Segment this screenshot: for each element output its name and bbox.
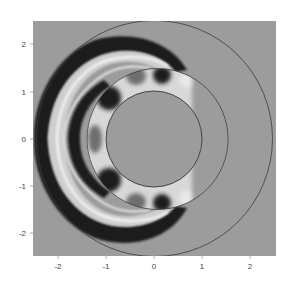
lobe-left [88, 125, 102, 153]
field-plot: 2 1 0 -1 -2 -2 -1 0 1 2 [0, 0, 290, 288]
x-tick-label: 0 [152, 262, 157, 271]
plot-area [33, 21, 276, 257]
y-tick-label: 2 [22, 40, 27, 49]
inner-disk [106, 91, 202, 187]
x-axis: -2 -1 0 1 2 [54, 256, 252, 271]
y-axis: 2 1 0 -1 -2 [19, 40, 33, 238]
y-tick-label: 1 [22, 88, 27, 97]
y-tick-label: -2 [19, 229, 27, 238]
y-tick-label: 0 [22, 135, 27, 144]
x-tick-label: 2 [248, 262, 253, 271]
x-tick-label: -2 [54, 262, 62, 271]
y-tick-label: -1 [19, 182, 27, 191]
x-tick-label: 1 [200, 262, 205, 271]
x-tick-label: -1 [102, 262, 110, 271]
